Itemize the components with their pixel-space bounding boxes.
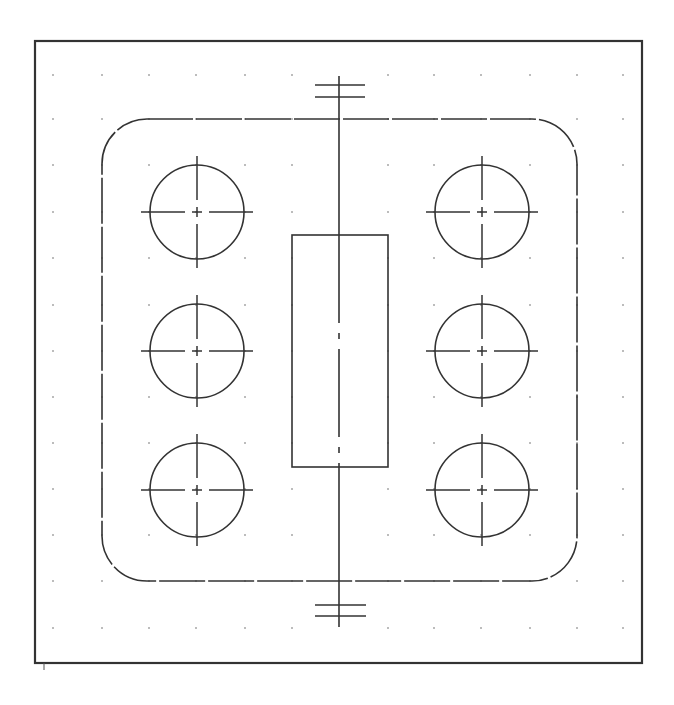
grid-dot [52, 580, 53, 581]
grid-dot [291, 534, 292, 535]
grid-dot [529, 442, 530, 443]
grid-dot [387, 211, 388, 212]
grid-dot [244, 627, 245, 628]
grid-dot [622, 396, 623, 397]
grid-dot [576, 74, 577, 75]
grid-dot [622, 442, 623, 443]
grid-dot [148, 627, 149, 628]
grid-dot [576, 580, 577, 581]
grid-dot [529, 74, 530, 75]
grid-dot [52, 350, 53, 351]
grid-dot [148, 396, 149, 397]
grid-dot [148, 534, 149, 535]
grid-dot [387, 74, 388, 75]
grid-dot [529, 534, 530, 535]
grid-dot [622, 350, 623, 351]
hole-bottom-right[interactable] [426, 434, 538, 546]
grid-dot [529, 304, 530, 305]
grid-dot [433, 442, 434, 443]
grid-dot [52, 488, 53, 489]
grid-dot [529, 164, 530, 165]
grid-dot [576, 118, 577, 119]
hole-bottom-left[interactable] [141, 434, 253, 546]
grid-dot [244, 74, 245, 75]
grid-dot [101, 580, 102, 581]
grid-dot [101, 74, 102, 75]
grid-dot [433, 627, 434, 628]
grid-dot [244, 396, 245, 397]
grid-dot [291, 74, 292, 75]
grid-dot [622, 211, 623, 212]
grid-dot [52, 396, 53, 397]
hole-top-right[interactable] [426, 156, 538, 268]
cad-drawing-canvas [0, 0, 674, 705]
grid-dot [244, 534, 245, 535]
grid-dot [622, 304, 623, 305]
grid-dot [195, 74, 196, 75]
grid-dot [622, 534, 623, 535]
grid-dot [291, 164, 292, 165]
grid-dot [148, 442, 149, 443]
grid-dot [622, 488, 623, 489]
grid-dot [244, 257, 245, 258]
grid-dot [101, 627, 102, 628]
grid-dot [52, 164, 53, 165]
hole-top-left[interactable] [141, 156, 253, 268]
grid-dot [433, 164, 434, 165]
grid-dot [244, 164, 245, 165]
grid-dot [433, 304, 434, 305]
grid-dot [148, 257, 149, 258]
grid-dot [622, 580, 623, 581]
grid-dot [433, 257, 434, 258]
grid-dot [52, 442, 53, 443]
grid-dot [433, 74, 434, 75]
center-slot-rect[interactable] [292, 235, 388, 467]
grid-dot [291, 211, 292, 212]
grid-dot [52, 74, 53, 75]
grid-dot [52, 211, 53, 212]
grid-dot [101, 118, 102, 119]
grid-dot [480, 627, 481, 628]
grid-dot [291, 118, 292, 119]
grid-dot [622, 257, 623, 258]
grid-dot [622, 627, 623, 628]
grid-dot [244, 442, 245, 443]
grid-dot [529, 396, 530, 397]
grid-dot [433, 534, 434, 535]
grid-dot [291, 488, 292, 489]
hole-middle-right[interactable] [426, 295, 538, 407]
grid-dot [387, 164, 388, 165]
grid-dot [148, 164, 149, 165]
grid-dot [622, 74, 623, 75]
grid-dot [148, 304, 149, 305]
hole-middle-left[interactable] [141, 295, 253, 407]
grid-dot [387, 627, 388, 628]
grid-dot [387, 488, 388, 489]
grid-dot [148, 74, 149, 75]
grid-dot [291, 627, 292, 628]
axis-end-ticks [315, 85, 366, 616]
grid-dot [52, 304, 53, 305]
grid-dot [52, 257, 53, 258]
grid-dot [622, 164, 623, 165]
grid-dot [387, 534, 388, 535]
grid-dot [576, 627, 577, 628]
grid-dot [52, 534, 53, 535]
grid-dot [480, 74, 481, 75]
grid-dot [195, 627, 196, 628]
grid-dot [529, 627, 530, 628]
grid-dot [529, 257, 530, 258]
grid-dot [433, 396, 434, 397]
grid-dot [622, 118, 623, 119]
grid-dot [244, 304, 245, 305]
grid-dot [52, 627, 53, 628]
grid-dot [52, 118, 53, 119]
